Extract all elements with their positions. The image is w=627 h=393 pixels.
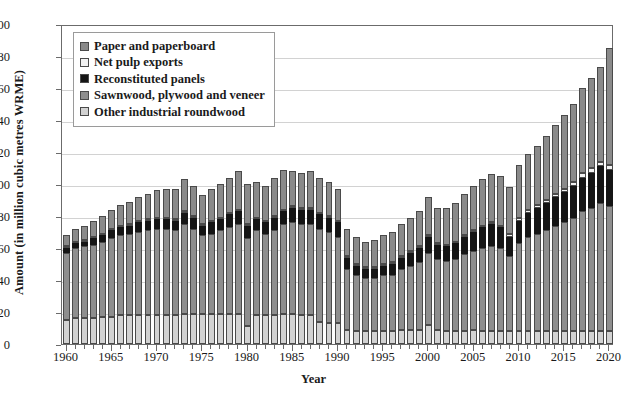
bar-segment — [235, 224, 242, 314]
bar-segment — [163, 315, 170, 344]
bar-segment — [534, 331, 541, 344]
bar-segment — [434, 245, 441, 259]
bar-segment — [416, 262, 423, 329]
bar-2004 — [461, 194, 468, 344]
bar-segment — [81, 318, 88, 344]
bar-segment — [543, 200, 550, 203]
bar-segment — [461, 194, 468, 236]
legend-swatch-icon — [80, 58, 89, 67]
bar-segment — [362, 278, 369, 331]
y-tick-label: 180 — [0, 51, 10, 64]
bar-1990 — [335, 189, 342, 344]
bar-segment — [199, 226, 206, 236]
bar-segment — [271, 230, 278, 315]
y-tick-label: 60 — [0, 243, 10, 256]
bar-1983 — [271, 178, 278, 344]
bar-segment — [425, 325, 432, 344]
bar-2000 — [425, 197, 432, 344]
x-tick-mark — [265, 345, 266, 349]
bar-segment — [452, 203, 459, 241]
bar-segment — [497, 176, 504, 226]
bar-segment — [326, 323, 333, 344]
bar-segment — [126, 226, 133, 234]
legend-label: Net pulp exports — [94, 56, 183, 69]
legend-swatch-icon — [80, 107, 89, 116]
bar-segment — [335, 189, 342, 221]
bar-1989 — [326, 182, 333, 344]
x-tick-mark — [274, 345, 275, 349]
bar-segment — [289, 171, 296, 206]
bar-segment — [253, 315, 260, 344]
bar-1967 — [126, 202, 133, 344]
bar-segment — [145, 221, 152, 231]
bar-segment — [506, 187, 513, 233]
bar-segment — [326, 218, 333, 232]
bar-segment — [208, 189, 215, 221]
bar-segment — [307, 210, 314, 224]
y-tick-mark — [56, 281, 61, 282]
bar-segment — [497, 227, 504, 248]
bar-segment — [289, 314, 296, 344]
bar-segment — [163, 219, 170, 229]
bar-segment — [497, 331, 504, 344]
bar-1987 — [307, 171, 314, 344]
bar-segment — [588, 78, 595, 168]
bar-2016 — [570, 104, 577, 344]
bar-1965 — [108, 210, 115, 344]
bar-segment — [226, 314, 233, 344]
bar-segment — [416, 248, 423, 262]
bar-1982 — [262, 186, 269, 344]
bar-segment — [506, 234, 513, 237]
bar-segment — [316, 229, 323, 322]
bar-segment — [108, 230, 115, 238]
x-tick-mark — [93, 345, 94, 349]
bar-segment — [72, 248, 79, 318]
legend-label: Paper and paperboard — [94, 40, 215, 53]
bar-segment — [172, 230, 179, 315]
bar-segment — [271, 218, 278, 231]
bar-segment — [570, 186, 577, 218]
bar-1981 — [253, 182, 260, 344]
x-tick-mark — [554, 345, 555, 349]
bar-segment — [63, 320, 70, 344]
y-tick-label: 40 — [0, 275, 10, 288]
x-tick-label: 1985 — [269, 350, 315, 365]
bar-segment — [606, 206, 613, 331]
legend-swatch-icon — [80, 42, 89, 51]
bar-segment — [588, 208, 595, 331]
bar-1980 — [244, 184, 251, 344]
bar-segment — [117, 315, 124, 344]
bar-1978 — [226, 178, 233, 344]
bar-segment — [407, 253, 414, 266]
x-tick-mark — [102, 345, 103, 349]
bar-segment — [154, 315, 161, 344]
x-tick-mark — [192, 345, 193, 349]
bar-segment — [117, 227, 124, 235]
bar-segment — [416, 330, 423, 344]
bar-segment — [307, 315, 314, 344]
bar-2017 — [579, 88, 586, 344]
bar-segment — [244, 326, 251, 344]
x-tick-mark — [599, 345, 600, 349]
bar-1991 — [344, 229, 351, 344]
bar-segment — [163, 189, 170, 218]
bar-segment — [362, 269, 369, 279]
bar-segment — [280, 224, 287, 314]
bar-segment — [253, 230, 260, 315]
bar-2013 — [543, 136, 550, 344]
bar-segment — [126, 234, 133, 316]
bar-1994 — [371, 240, 378, 344]
bar-segment — [398, 269, 405, 330]
bar-segment — [371, 269, 378, 279]
x-tick-label: 2010 — [495, 350, 541, 365]
bar-segment — [244, 226, 251, 239]
legend-item: Paper and paperboard — [80, 38, 265, 54]
bar-segment — [298, 315, 305, 344]
bar-segment — [145, 315, 152, 344]
legend-item: Sawnwood, plywood and veneer — [80, 87, 265, 103]
bar-segment — [135, 222, 142, 232]
y-tick-mark — [56, 57, 61, 58]
bar-segment — [262, 315, 269, 344]
bar-segment — [253, 219, 260, 230]
x-tick-label: 2020 — [585, 350, 627, 365]
